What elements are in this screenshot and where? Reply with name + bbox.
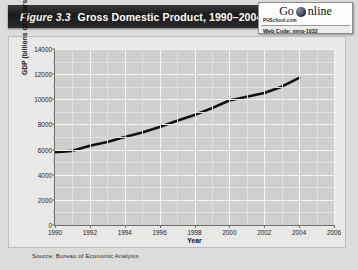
x-tick-label: 2002 — [257, 229, 271, 236]
source-note: Source: Bureau of Economic Analysis — [32, 252, 139, 259]
y-tick-mark — [52, 149, 55, 150]
y-tick-mark-minor — [53, 187, 55, 188]
go-online-wordmark: Go nline — [259, 3, 352, 18]
x-tick-mark — [299, 225, 300, 228]
gridline-v — [195, 49, 196, 225]
y-tick-mark — [52, 174, 55, 175]
y-tick-label: 8000 — [38, 121, 52, 128]
gridline-v — [264, 49, 265, 225]
figure-container: Figure 3.3 Gross Domestic Product, 1990–… — [0, 0, 358, 270]
y-tick-label: 12000 — [34, 71, 52, 78]
gridline-v — [299, 49, 300, 225]
x-tick-label: 2006 — [327, 229, 341, 236]
y-tick-label: 4000 — [38, 171, 52, 178]
x-tick-mark — [195, 225, 196, 228]
gridline-v — [212, 49, 213, 225]
gridline-v — [282, 49, 283, 225]
x-tick-label: 1996 — [153, 229, 167, 236]
x-tick-mark — [334, 225, 335, 228]
y-tick-label: 0 — [48, 222, 52, 229]
y-tick-mark — [52, 99, 55, 100]
y-tick-mark-minor — [53, 111, 55, 112]
x-tick-mark — [160, 225, 161, 228]
x-tick-label: 2004 — [292, 229, 306, 236]
y-tick-mark — [52, 199, 55, 200]
y-tick-label: 14000 — [34, 46, 52, 53]
gridline-v — [317, 49, 318, 225]
x-tick-label: 1992 — [83, 229, 97, 236]
gridline-v — [247, 49, 248, 225]
x-tick-label: 2000 — [222, 229, 236, 236]
x-tick-mark — [264, 225, 265, 228]
x-axis-label: Year — [187, 237, 201, 244]
gridline-v — [160, 49, 161, 225]
y-tick-mark-minor — [53, 212, 55, 213]
x-tick-label: 1990 — [48, 229, 62, 236]
online-text: nline — [308, 5, 332, 17]
y-tick-label: 6000 — [38, 146, 52, 153]
x-tick-mark — [229, 225, 230, 228]
phschool-site: PHSchool.com — [263, 18, 352, 24]
gridline-v — [72, 49, 73, 225]
globe-icon — [296, 7, 306, 17]
gridline-v — [107, 49, 108, 225]
gridline-v — [334, 49, 335, 225]
gridline-v — [90, 49, 91, 225]
gridline-v — [125, 49, 126, 225]
y-tick-mark — [52, 49, 55, 50]
plot-area: GDP (billions of dollars) Year 020004000… — [54, 49, 334, 226]
x-tick-label: 1994 — [118, 229, 132, 236]
gridline-v — [229, 49, 230, 225]
y-tick-mark-minor — [53, 137, 55, 138]
y-tick-mark-minor — [53, 162, 55, 163]
y-tick-mark-minor — [53, 61, 55, 62]
x-tick-mark — [125, 225, 126, 228]
y-axis-label: GDP (billions of dollars) — [21, 0, 28, 75]
go-online-badge[interactable]: Go nline PHSchool.com Web Code: mng-1032 — [258, 2, 353, 34]
gridline-v — [177, 49, 178, 225]
y-tick-mark — [52, 124, 55, 125]
x-tick-mark — [90, 225, 91, 228]
figure-title-bar: Figure 3.3 Gross Domestic Product, 1990–… — [8, 5, 258, 28]
y-tick-mark-minor — [53, 86, 55, 87]
web-code: Web Code: mng-1032 — [261, 25, 350, 34]
y-tick-label: 2000 — [38, 196, 52, 203]
gridline-v — [142, 49, 143, 225]
x-tick-label: 1998 — [187, 229, 201, 236]
x-tick-mark — [55, 225, 56, 228]
chart-panel: GDP (billions of dollars) Year 020004000… — [8, 36, 346, 248]
page-title: Gross Domestic Product, 1990–2004 — [78, 11, 263, 23]
y-tick-mark — [52, 74, 55, 75]
go-text: Go — [279, 5, 294, 17]
y-tick-label: 10000 — [34, 96, 52, 103]
